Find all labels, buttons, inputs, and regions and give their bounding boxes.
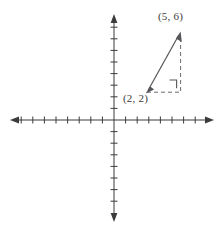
y-axis-arrow-down [111,213,118,222]
x-axis-arrow-left [10,117,19,124]
coordinate-plane-figure: (5, 6) (2, 2) [0,0,223,231]
y-axis-arrow-up [111,14,118,23]
right-angle-icon [170,80,177,88]
x-axis-arrow-right [205,117,214,124]
plot-canvas [0,0,223,231]
point-label-2-2: (2, 2) [123,92,148,104]
hypotenuse-line [148,36,179,91]
hypotenuse-arrow-upper [176,32,182,42]
point-label-5-6: (5, 6) [158,10,183,22]
